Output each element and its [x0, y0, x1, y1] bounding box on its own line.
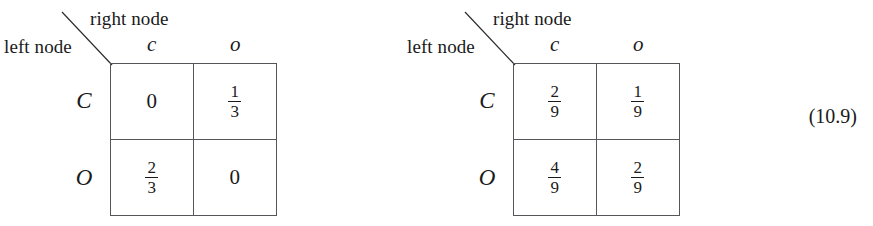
matrix-cell-C-c: 0 [111, 64, 194, 140]
matrix-cell-C-c: 2 9 [514, 64, 597, 140]
cell-value: 0 [230, 165, 241, 190]
fraction-denominator: 9 [632, 178, 645, 196]
row-header-O: O [465, 140, 509, 217]
matrix-left: right node left node c o C O 0 1 3 2 3 [0, 0, 300, 226]
corner-divider-line [463, 10, 519, 68]
matrix-cell-O-o: 0 [194, 140, 277, 216]
equation-number: (10.9) [809, 105, 857, 128]
fraction-denominator: 9 [549, 102, 562, 120]
cell-value-fraction: 2 3 [145, 159, 158, 196]
matrix-right: right node left node c o C O 2 9 1 9 [403, 0, 703, 226]
fraction-denominator: 9 [632, 102, 645, 120]
fraction-numerator: 1 [632, 83, 645, 101]
row-header-C: C [62, 63, 106, 140]
matrix-cell-O-c: 4 9 [514, 140, 597, 216]
matrix-cell-O-o: 2 9 [597, 140, 680, 216]
fraction-numerator: 1 [229, 83, 242, 101]
row-header-column: C O [62, 63, 106, 216]
matrix-cell-O-c: 2 3 [111, 140, 194, 216]
fraction-numerator: 2 [632, 159, 645, 177]
corner-divider-line [60, 10, 116, 68]
matrix-cell-C-o: 1 3 [194, 64, 277, 140]
fraction-numerator: 4 [549, 159, 562, 177]
fraction-denominator: 3 [146, 178, 159, 196]
column-header-o: o [597, 28, 681, 60]
matrix-grid: 0 1 3 2 3 0 [110, 63, 277, 216]
row-header-C: C [465, 63, 509, 140]
fraction-numerator: 2 [549, 83, 562, 101]
column-header-c: c [110, 28, 194, 60]
cell-value-fraction: 2 9 [548, 83, 561, 120]
column-header-c: c [513, 28, 597, 60]
row-header-column: C O [465, 63, 509, 216]
matrix-grid: 2 9 1 9 4 9 2 9 [513, 63, 680, 216]
column-header-row: c o [110, 28, 277, 60]
fraction-denominator: 3 [229, 102, 242, 120]
cell-value-fraction: 1 3 [228, 83, 241, 120]
cell-value-fraction: 1 9 [631, 83, 644, 120]
cell-value-fraction: 4 9 [548, 159, 561, 196]
fraction-numerator: 2 [146, 159, 159, 177]
column-header-row: c o [513, 28, 680, 60]
fraction-denominator: 9 [549, 178, 562, 196]
row-header-O: O [62, 140, 106, 217]
cell-value: 0 [147, 89, 158, 114]
matrix-cell-C-o: 1 9 [597, 64, 680, 140]
cell-value-fraction: 2 9 [631, 159, 644, 196]
column-header-o: o [194, 28, 278, 60]
